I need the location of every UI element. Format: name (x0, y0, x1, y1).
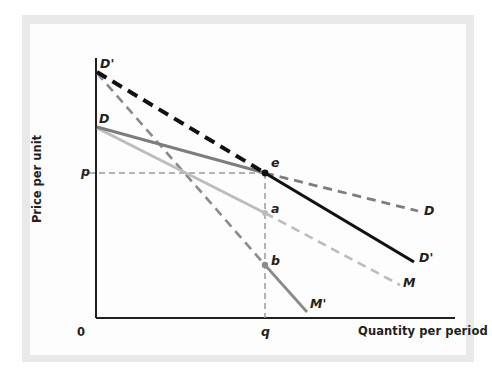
point-a-marker (262, 210, 268, 216)
figure-container: Price per unit Quantity per period 0 p q… (0, 0, 492, 371)
curve-d-prime-dashed-segment (97, 72, 265, 173)
curve-m-dashed-segment (265, 213, 400, 285)
x-axis-label: Quantity per period (358, 326, 488, 338)
point-label-a: a (271, 203, 279, 216)
curve-m-solid-segment (97, 128, 265, 213)
curve-label-d-top: D (99, 113, 109, 126)
curve-d-solid-segment (97, 127, 265, 173)
price-tick-label: p (81, 166, 90, 179)
point-label-b: b (271, 255, 280, 268)
curve-d-dashed-segment (265, 173, 418, 211)
curve-label-d-right: D (424, 205, 434, 218)
curve-label-d-prime-top: D' (100, 58, 114, 71)
curve-label-m-prime-right: M' (310, 298, 326, 311)
curve-label-d-prime-right: D' (419, 252, 433, 265)
point-b-marker (262, 262, 268, 268)
point-label-e: e (271, 157, 279, 170)
curve-label-m-right: M (403, 277, 415, 290)
quantity-tick-label: q (261, 326, 270, 339)
curve-m-prime-solid-segment (265, 265, 307, 312)
curve-d-prime-solid-segment (265, 173, 414, 262)
y-axis-label: Price per unit (30, 109, 44, 249)
point-e-marker (262, 170, 269, 177)
origin-label: 0 (77, 327, 85, 339)
chart-plot (0, 0, 492, 371)
